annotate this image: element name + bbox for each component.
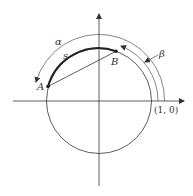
label-alpha: α — [55, 36, 62, 47]
unit-circle-diagram: α s A B β (1, 0) — [0, 0, 193, 196]
point-a — [46, 85, 50, 89]
chord-ab — [48, 51, 116, 86]
point-b — [114, 50, 118, 54]
label-b: B — [110, 56, 118, 67]
label-a: A — [36, 81, 44, 92]
label-unit-point: (1, 0) — [154, 105, 178, 115]
arc-beta — [121, 46, 158, 101]
label-beta: β — [158, 48, 165, 59]
label-s: s — [63, 50, 68, 61]
